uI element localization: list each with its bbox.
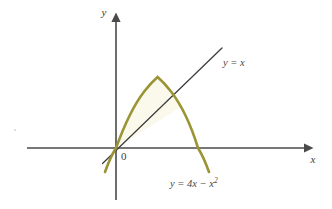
- parabola-equation-exponent: 2: [214, 176, 218, 185]
- line-equation-label: y = x: [222, 57, 245, 68]
- y-axis-label: y: [101, 6, 107, 18]
- scan-speck: [14, 129, 16, 131]
- parabola-equation-base: y = 4x − x: [169, 178, 214, 189]
- origin-label: 0: [121, 150, 127, 162]
- graph-figure: y x 0 y = x y = 4x − x2: [0, 0, 332, 209]
- parabola-equation-label: y = 4x − x2: [169, 176, 218, 189]
- x-axis-label: x: [310, 153, 316, 165]
